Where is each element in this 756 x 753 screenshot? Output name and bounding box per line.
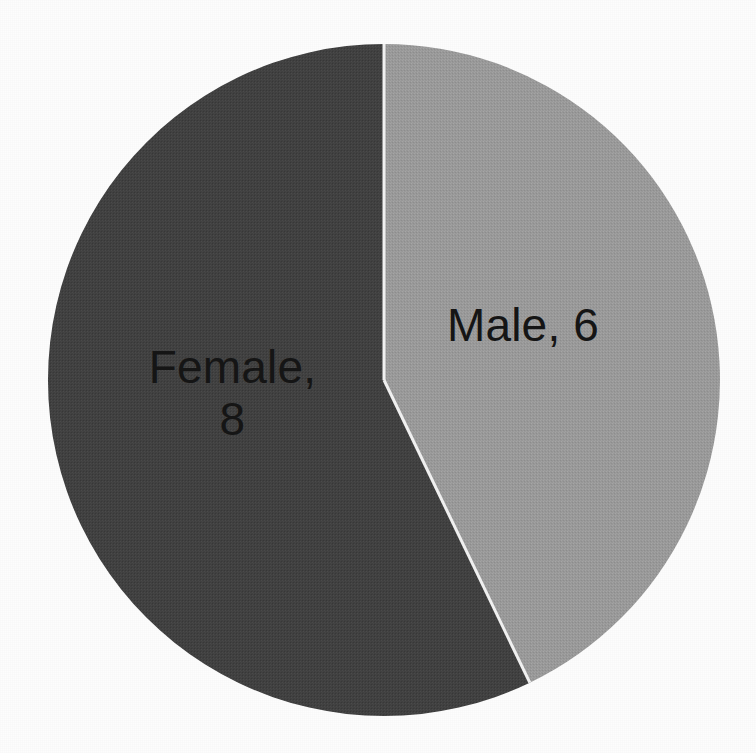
pie-chart-figure: Male, 6 Female, 8 [0,0,756,753]
pie-label-male: Male, 6 [398,300,648,352]
pie-label-female: Female, 8 [100,342,365,445]
